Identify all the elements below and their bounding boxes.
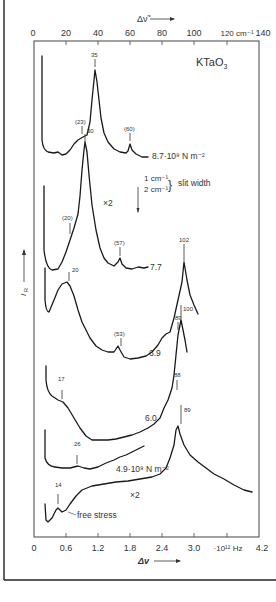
- bottom-axis-title: Δν: [137, 556, 149, 566]
- free-stress-leader: [68, 512, 76, 515]
- slit-width-annotation: 1 cm⁻¹ 2 cm⁻¹ } slit width: [137, 174, 211, 213]
- top-axis-title: Δν̃: [137, 14, 152, 24]
- peak-label-88: 88: [174, 372, 181, 378]
- peak-label-100: 100: [183, 306, 194, 312]
- peak-label-20: 20: [72, 267, 79, 273]
- spectrum-6-9: [45, 262, 198, 359]
- stress-label-7-7: 7.7: [150, 262, 162, 272]
- bottom-axis-tick-labels: 0 0.6 1.2 1.8 2.4 3.0 ·10¹² Hz 4.2: [31, 543, 268, 553]
- svg-text:3.0: 3.0: [188, 543, 201, 553]
- svg-text:20: 20: [61, 28, 71, 38]
- peak-label-57: (57): [114, 240, 125, 246]
- top-axis-tick-labels: 0 20 40 60 80 100 120 cm⁻¹ 140: [30, 28, 270, 38]
- stress-label-6-9: 6.9: [149, 348, 161, 358]
- sample-label: KTaO3: [196, 56, 228, 70]
- peak-label-26: 26: [74, 441, 81, 447]
- plot-frame: [34, 41, 259, 537]
- svg-text:1.2: 1.2: [92, 543, 105, 553]
- svg-text:}: }: [168, 178, 172, 192]
- peak-label-35: 35: [91, 52, 98, 58]
- top-axis-arrowhead: [170, 17, 175, 21]
- y-axis-label: I R: [19, 249, 29, 296]
- spectrum-8-7: [42, 56, 148, 157]
- peak-label-14: 14: [55, 482, 62, 488]
- svg-text:0.6: 0.6: [60, 543, 73, 553]
- svg-text:1 cm⁻¹: 1 cm⁻¹: [144, 174, 169, 183]
- peak-label-53: (53): [114, 331, 125, 337]
- peak-label-89-free: 89: [184, 407, 191, 413]
- spectrum-6-0: [46, 320, 187, 440]
- stress-label-free: free stress: [77, 510, 117, 520]
- svg-text:0: 0: [30, 28, 35, 38]
- peak-label-30: 30: [87, 128, 94, 134]
- svg-text:I: I: [19, 293, 28, 296]
- svg-text:slit width: slit width: [178, 178, 211, 188]
- svg-text:·10¹² Hz: ·10¹² Hz: [214, 544, 243, 553]
- svg-text:140: 140: [255, 28, 270, 38]
- svg-text:2.4: 2.4: [156, 543, 169, 553]
- bottom-axis-arrowhead: [176, 559, 181, 563]
- svg-text:80: 80: [157, 28, 167, 38]
- stress-label-8-7: 8.7·10⁸ N m⁻²: [152, 151, 205, 161]
- peak-label-60: (60): [124, 126, 135, 132]
- top-axis: [66, 41, 227, 45]
- peak-label-20-bracket: (20): [62, 215, 73, 221]
- stress-label-6-0: 6.0: [145, 413, 157, 423]
- svg-text:40: 40: [93, 28, 103, 38]
- scale-label-x2-upper: ×2: [103, 198, 113, 208]
- bottom-axis: [66, 533, 227, 537]
- svg-text:0: 0: [31, 543, 36, 553]
- svg-text:2 cm⁻¹: 2 cm⁻¹: [144, 185, 169, 194]
- peak-label-17: 17: [58, 376, 65, 382]
- svg-text:4.2: 4.2: [256, 543, 269, 553]
- svg-text:100: 100: [186, 28, 201, 38]
- svg-text:60: 60: [125, 28, 135, 38]
- scale-label-x2-lower: ×2: [130, 490, 140, 500]
- peak-label-23: (23): [75, 119, 86, 125]
- svg-text:R: R: [23, 288, 29, 292]
- peak-label-102: 102: [179, 237, 190, 243]
- raman-spectra-figure: 0 20 40 60 80 100 120 cm⁻¹ 140 Δν̃ 0 0.6…: [0, 0, 276, 602]
- svg-text:120 cm⁻¹: 120 cm⁻¹: [220, 29, 253, 38]
- spectrum-7-7: [44, 142, 148, 270]
- svg-text:1.8: 1.8: [124, 543, 137, 553]
